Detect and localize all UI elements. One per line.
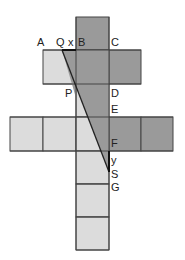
label-a: A [37,36,45,48]
label-c: C [111,36,119,48]
label-g: G [111,181,120,193]
square-right-top [109,50,141,84]
square-row-2 [43,117,76,151]
square-ef-right2 [141,117,173,151]
label-f: F [111,137,118,149]
label-d: D [111,87,119,99]
label-p: P [65,87,72,99]
label-b: B [78,36,85,48]
geometry-diagram: A Q x B C P D E F y S G [0,0,185,260]
label-x: x [68,36,74,48]
square-column-e [76,217,109,250]
label-y: y [111,154,117,166]
label-s: S [111,168,118,180]
label-q: Q [56,36,65,48]
label-e: E [111,103,118,115]
square-row-1 [10,117,43,151]
square-column-d [76,184,109,217]
